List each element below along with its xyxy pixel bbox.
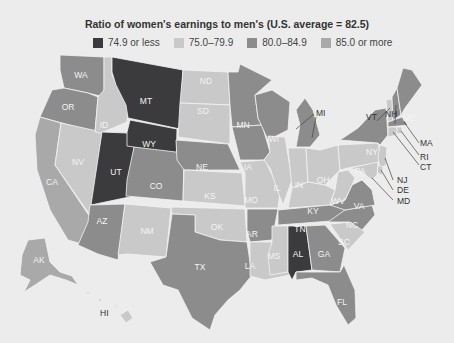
state-label-or: OR (62, 102, 75, 112)
state-label-oh: OH (317, 175, 330, 185)
state-label-ri: RI (420, 152, 429, 162)
state-label-ms: MS (268, 251, 281, 261)
state-label-nj: NJ (397, 175, 407, 185)
state-label-tn: TN (294, 224, 305, 234)
state-label-ga: GA (318, 249, 331, 259)
state-label-ny: NY (366, 147, 378, 157)
state-label-ar: AR (246, 229, 258, 239)
state-label-co: CO (150, 181, 163, 191)
state-label-vt: VT (366, 112, 377, 122)
state-label-wi: WI (269, 134, 279, 144)
state-label-ct: CT (420, 162, 431, 172)
state-label-de: DE (397, 185, 409, 195)
leader-line-de (381, 170, 393, 190)
state-label-ne: NE (196, 162, 208, 172)
state-label-az: AZ (97, 216, 108, 226)
state-label-mo: MO (244, 195, 258, 205)
state-hi-island[interactable] (87, 292, 90, 295)
leader-line-ri (401, 131, 419, 155)
state-ri[interactable] (397, 127, 402, 134)
state-ne[interactable] (176, 140, 240, 170)
state-label-mn: MN (236, 120, 249, 130)
state-label-ky: KY (307, 206, 319, 216)
state-mi[interactable] (296, 98, 320, 147)
state-label-ia: IA (244, 162, 252, 172)
state-label-mi: MI (316, 108, 325, 118)
state-label-tx: TX (195, 262, 206, 272)
state-label-pa: PA (355, 166, 366, 176)
state-label-nc: NC (346, 220, 358, 230)
state-label-wa: WA (74, 70, 88, 80)
state-label-id: ID (100, 120, 109, 130)
state-label-md: MD (397, 196, 410, 206)
state-ny[interactable] (340, 108, 388, 145)
leader-line-ma (404, 122, 419, 143)
leader-line-nj (385, 158, 393, 180)
state-label-sd: SD (197, 106, 209, 116)
state-label-ok: OK (211, 222, 224, 232)
state-label-sc: SC (338, 237, 350, 247)
state-label-me: ME (403, 113, 416, 123)
state-label-wv: WV (331, 196, 345, 206)
us-map: WA OR CA NV ID MT WY UT CO AZ NM ND SD N… (0, 0, 454, 343)
state-label-ks: KS (204, 191, 216, 201)
state-co[interactable] (126, 147, 184, 201)
state-label-va: VA (354, 201, 365, 211)
state-label-il: IL (273, 183, 280, 193)
state-fl[interactable] (296, 265, 356, 325)
state-label-fl: FL (337, 297, 347, 307)
state-label-hi: HI (100, 308, 109, 318)
state-label-al: AL (293, 249, 304, 259)
leader-line-md (372, 178, 393, 200)
state-label-ma: MA (420, 138, 433, 148)
state-hi[interactable] (120, 310, 133, 323)
state-label-nd: ND (200, 76, 212, 86)
state-hi-island[interactable] (99, 299, 102, 302)
state-nj[interactable] (378, 145, 387, 168)
state-ak[interactable] (20, 238, 78, 292)
state-me[interactable] (397, 68, 422, 115)
state-label-nv: NV (72, 157, 84, 167)
state-hi-island[interactable] (115, 305, 117, 307)
state-label-la: LA (245, 261, 256, 271)
state-label-nh: NH (385, 109, 397, 119)
state-label-ak: AK (33, 255, 45, 265)
state-label-ut: UT (110, 167, 121, 177)
state-label-nm: NM (140, 226, 153, 236)
state-label-mt: MT (140, 96, 152, 106)
state-label-in: IN (295, 180, 304, 190)
state-label-ca: CA (46, 177, 58, 187)
state-label-wy: WY (142, 139, 156, 149)
